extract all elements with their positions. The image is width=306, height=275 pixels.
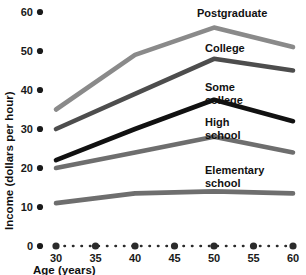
y-tick-label-10: 10: [21, 201, 33, 213]
series-label-postgraduate: Postgraduate: [197, 7, 267, 19]
x-tick-dot-50: [210, 242, 217, 249]
y-tick-label-30: 30: [21, 123, 33, 135]
x-tick-label-55: 55: [247, 252, 259, 264]
y-tick-dot-40: [37, 87, 43, 93]
x-tick-dot-60: [289, 242, 296, 249]
income-by-education-line-chart: 60 50 40 30 20 10 0 Income (dollars per …: [0, 0, 306, 275]
series-line-elementary-school: [56, 191, 293, 203]
series-label-elementary-school-line2: school: [205, 177, 240, 189]
series-label-high-school-line2: school: [205, 129, 240, 141]
y-tick-dot-50: [37, 48, 43, 54]
x-tick-dot-55: [250, 242, 257, 249]
y-axis-tick-dots: [37, 9, 43, 249]
y-tick-dot-10: [37, 204, 43, 210]
series-label-college: College: [205, 42, 245, 54]
series-label-high-school-line1: High: [205, 116, 230, 128]
y-tick-label-40: 40: [21, 84, 33, 96]
y-tick-dot-20: [37, 165, 43, 171]
y-tick-dot-0: [37, 243, 43, 249]
x-tick-label-50: 50: [208, 252, 220, 264]
series-label-some-college-line1: Some: [205, 81, 235, 93]
y-axis-title: Income (dollars per hour): [3, 91, 15, 230]
x-tick-label-30: 30: [50, 252, 62, 264]
x-tick-dot-30: [52, 242, 59, 249]
x-tick-dot-35: [92, 242, 99, 249]
x-tick-label-45: 45: [168, 252, 180, 264]
x-axis-tick-labels: 30 35 40 45 50 55 60: [50, 252, 299, 264]
x-axis-title: Age (years): [33, 264, 96, 275]
y-tick-label-50: 50: [21, 45, 33, 57]
x-tick-label-40: 40: [129, 252, 141, 264]
chart-canvas: 60 50 40 30 20 10 0 Income (dollars per …: [0, 0, 306, 275]
series-layer: [56, 28, 293, 204]
y-tick-label-60: 60: [21, 6, 33, 18]
series-line-some-college: [56, 100, 293, 160]
series-line-postgraduate: [56, 28, 293, 110]
x-tick-label-35: 35: [89, 252, 101, 264]
series-label-elementary-school-line1: Elementary: [205, 164, 265, 176]
y-axis-tick-labels: 60 50 40 30 20 10 0: [21, 6, 33, 252]
x-tick-label-60: 60: [287, 252, 299, 264]
x-tick-dot-40: [131, 242, 138, 249]
series-line-college: [56, 59, 293, 129]
y-tick-dot-60: [37, 9, 43, 15]
y-tick-label-20: 20: [21, 162, 33, 174]
series-label-some-college-line2: college: [205, 94, 243, 106]
x-tick-dot-45: [171, 242, 178, 249]
y-tick-label-0: 0: [27, 240, 33, 252]
y-tick-dot-30: [37, 126, 43, 132]
